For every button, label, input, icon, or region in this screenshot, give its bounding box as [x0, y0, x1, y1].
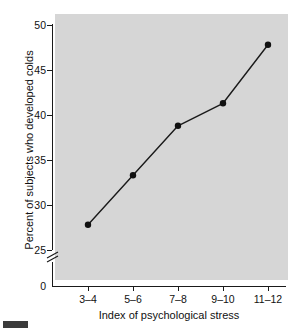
- y-axis-line-upper: [52, 24, 53, 250]
- y-tick-label-45: 45: [34, 65, 46, 76]
- plot-area-background: [55, 14, 288, 280]
- figure-chart: 50 45 40 35 30 25 0 3–4 5–6 7–8 9–10 11–…: [0, 0, 308, 329]
- y-axis-title: Percent of subjects who developed colds: [23, 25, 35, 275]
- x-tick-5-6: [133, 286, 134, 291]
- y-tick-label-35: 35: [34, 155, 46, 166]
- page-corner-mark: [3, 321, 28, 328]
- y-tick-label-50: 50: [34, 20, 46, 31]
- y-tick-30: [47, 205, 52, 206]
- y-tick-40: [47, 115, 52, 116]
- axis-break-icon: [45, 250, 61, 264]
- x-tick-label-7-8: 7–8: [169, 294, 187, 305]
- x-tick-7-8: [178, 286, 179, 291]
- x-tick-label-11-12: 11–12: [254, 294, 282, 305]
- x-axis-title: Index of psychological stress: [52, 309, 286, 321]
- y-axis-line-lower: [52, 262, 53, 286]
- y-tick-50: [47, 25, 52, 26]
- y-tick-label-0: 0: [40, 281, 46, 292]
- y-tick-label-30: 30: [34, 200, 46, 211]
- x-tick-9-10: [223, 286, 224, 291]
- x-tick-3-4: [88, 286, 89, 291]
- y-tick-label-40: 40: [34, 110, 46, 121]
- x-tick-11-12: [268, 286, 269, 291]
- x-tick-label-5-6: 5–6: [124, 294, 142, 305]
- y-tick-25: [47, 250, 52, 251]
- y-tick-45: [47, 70, 52, 71]
- y-tick-35: [47, 160, 52, 161]
- y-tick-label-25: 25: [34, 245, 46, 256]
- x-tick-label-3-4: 3–4: [79, 294, 97, 305]
- x-tick-label-9-10: 9–10: [211, 294, 234, 305]
